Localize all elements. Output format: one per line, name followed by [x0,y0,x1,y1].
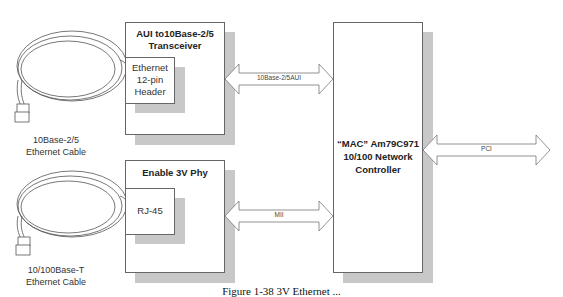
figure-caption: Figure 1-38 3V Ethernet ... [0,285,563,297]
aui-bus-label: 10Base-2/5AUI [239,74,319,81]
mii-bus-label: MII [239,211,319,218]
pci-bus-label: PCI [437,145,536,152]
